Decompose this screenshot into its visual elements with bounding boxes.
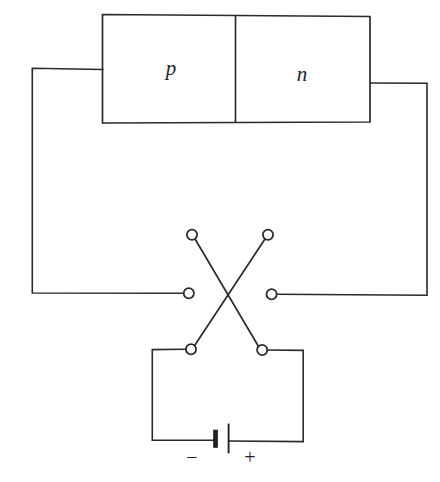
top-left-terminal[interactable] <box>187 230 197 240</box>
circuit-diagram: p n − + <box>0 0 440 482</box>
circuit-svg: p n − + <box>0 0 440 482</box>
bottom-right-terminal[interactable] <box>257 345 267 355</box>
n-region-label: n <box>297 62 308 86</box>
battery-negative-plate <box>213 430 217 448</box>
top-right-terminal[interactable] <box>263 230 273 240</box>
p-region-label: p <box>164 56 177 80</box>
battery-wire-positive-side <box>230 350 304 442</box>
battery-wire-negative-side <box>152 349 215 440</box>
battery-positive-label: + <box>244 446 255 468</box>
middle-left-terminal[interactable] <box>184 288 194 298</box>
battery-negative-label: − <box>186 446 197 468</box>
bottom-left-terminal[interactable] <box>186 344 196 354</box>
middle-right-terminal[interactable] <box>267 289 277 299</box>
battery-cell-group: − + <box>186 424 255 468</box>
pn-block-group: p n <box>103 15 371 124</box>
crossover-switch-group[interactable] <box>184 230 277 355</box>
